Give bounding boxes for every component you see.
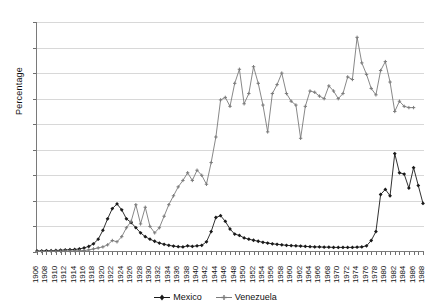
data-point — [153, 239, 157, 243]
x-tick-mark-1924 — [122, 252, 123, 255]
data-point — [101, 245, 104, 248]
data-point — [384, 60, 387, 63]
data-point — [275, 242, 279, 246]
legend-item-venezuela[interactable]: Venezuela — [216, 293, 277, 302]
x-tick-mark-1968 — [329, 252, 330, 255]
x-tick-mark-1947 — [230, 252, 231, 255]
x-tick-label-1920: 1920 — [98, 266, 106, 283]
x-tick-mark-1957 — [277, 252, 278, 255]
x-tick-label-1986: 1986 — [409, 266, 417, 283]
x-tick-mark-1933 — [164, 252, 165, 255]
x-tick-label-1962: 1962 — [296, 266, 304, 283]
data-point — [214, 216, 218, 220]
data-point — [416, 184, 420, 188]
data-point — [176, 245, 180, 249]
data-point — [355, 245, 359, 249]
data-point — [186, 244, 190, 248]
x-tick-mark-1974 — [357, 252, 358, 255]
data-point — [289, 244, 293, 248]
data-point — [346, 75, 349, 78]
x-tick-mark-1961 — [296, 252, 297, 255]
x-tick-mark-1971 — [343, 252, 344, 255]
x-tick-label-1928: 1928 — [136, 266, 144, 283]
data-point — [322, 245, 326, 249]
x-tick-mark-1982 — [395, 252, 396, 255]
x-tick-mark-1919 — [98, 252, 99, 255]
data-point — [238, 233, 242, 237]
x-tick-mark-1914 — [75, 252, 76, 255]
data-point — [379, 69, 382, 72]
x-tick-mark-1931 — [155, 252, 156, 255]
data-point — [270, 242, 274, 246]
data-point — [299, 137, 302, 140]
series-line-mexico — [37, 154, 423, 251]
data-point — [336, 246, 340, 250]
x-tick-mark-1929 — [145, 252, 146, 255]
x-tick-label-1960: 1960 — [286, 266, 294, 283]
data-point — [224, 96, 227, 99]
x-tick-label-1934: 1934 — [164, 266, 172, 283]
x-tick-label-1922: 1922 — [107, 266, 115, 283]
x-tick-mark-1934 — [169, 252, 170, 255]
x-tick-mark-1962 — [301, 252, 302, 255]
x-tick-label-1914: 1914 — [70, 266, 78, 283]
data-point — [195, 244, 199, 248]
data-point — [332, 246, 336, 250]
legend-item-mexico[interactable]: Mexico — [154, 293, 202, 302]
x-tick-label-1926: 1926 — [126, 266, 134, 283]
chart-legend: Mexico Venezuela — [0, 293, 431, 302]
data-point — [209, 161, 212, 164]
x-tick-label-1912: 1912 — [60, 266, 68, 283]
data-point — [247, 92, 250, 95]
data-point — [162, 242, 166, 246]
legend-label-mexico: Mexico — [173, 293, 202, 302]
x-tick-mark-1953 — [258, 252, 259, 255]
x-tick-mark-1923 — [117, 252, 118, 255]
x-tick-mark-1983 — [399, 252, 400, 255]
x-tick-mark-1942 — [206, 252, 207, 255]
x-tick-mark-1941 — [202, 252, 203, 255]
x-tick-mark-1984 — [404, 252, 405, 255]
x-tick-mark-1956 — [272, 252, 273, 255]
data-point — [280, 71, 283, 74]
x-tick-mark-1939 — [192, 252, 193, 255]
data-point — [219, 98, 222, 101]
x-tick-label-1980: 1980 — [380, 266, 388, 283]
x-tick-label-1942: 1942 — [201, 266, 209, 283]
x-tick-mark-1916 — [84, 252, 85, 255]
x-tick-label-1976: 1976 — [362, 266, 370, 283]
x-tick-label-1908: 1908 — [41, 266, 49, 283]
x-tick-label-1924: 1924 — [117, 266, 125, 283]
data-point — [285, 243, 289, 247]
data-point — [157, 241, 161, 245]
data-point — [388, 80, 391, 83]
data-point — [257, 82, 260, 85]
data-point — [87, 248, 90, 251]
x-tick-mark-1965 — [315, 252, 316, 255]
x-tick-mark-1967 — [324, 252, 325, 255]
data-point — [280, 243, 284, 247]
x-tick-label-1938: 1938 — [183, 266, 191, 283]
data-point — [318, 245, 322, 249]
x-tick-mark-1978 — [376, 252, 377, 255]
data-point — [407, 106, 410, 109]
data-point — [266, 130, 269, 133]
data-point — [252, 65, 255, 68]
data-point — [247, 237, 251, 241]
data-point — [308, 89, 311, 92]
x-tick-mark-1963 — [305, 252, 306, 255]
x-tick-mark-1958 — [282, 252, 283, 255]
data-point — [242, 102, 245, 105]
x-tick-mark-1921 — [108, 252, 109, 255]
data-point — [238, 68, 241, 71]
x-tick-mark-1960 — [291, 252, 292, 255]
data-point — [346, 246, 350, 250]
data-point — [374, 230, 378, 234]
x-tick-label-1950: 1950 — [239, 266, 247, 283]
data-point — [256, 239, 260, 243]
data-point — [205, 183, 208, 186]
data-point — [96, 246, 99, 249]
legend-label-venezuela: Venezuela — [235, 293, 277, 302]
data-point — [341, 246, 345, 250]
data-point — [294, 244, 298, 248]
